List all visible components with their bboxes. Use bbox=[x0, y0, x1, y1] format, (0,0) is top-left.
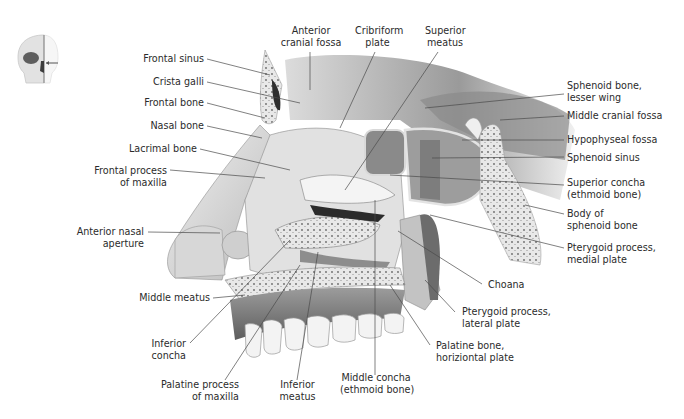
label-middle-meatus: Middle meatus bbox=[139, 292, 210, 304]
label-anterior-nasal-aperture: Anterior nasalaperture bbox=[77, 226, 144, 250]
label-palatine-process-maxilla: Palatine processof maxilla bbox=[161, 379, 239, 403]
label-middle-cranial-fossa: Middle cranial fossa bbox=[567, 110, 662, 122]
anatomy-figure: Frontal sinus Crista galli Frontal bone … bbox=[0, 0, 684, 419]
label-cribriform-plate: Cribriformplate bbox=[355, 25, 400, 49]
label-body-sphenoid: Body ofsphenoid bone bbox=[567, 208, 638, 232]
label-inferior-meatus: Inferiormeatus bbox=[275, 379, 320, 403]
label-frontal-bone: Frontal bone bbox=[144, 97, 204, 109]
label-superior-meatus: Superiormeatus bbox=[425, 25, 465, 49]
label-anterior-cranial-fossa: Anteriorcranial fossa bbox=[280, 25, 342, 49]
label-crista-galli: Crista galli bbox=[153, 76, 204, 88]
label-sphenoid-sinus: Sphenoid sinus bbox=[567, 152, 640, 164]
label-sphenoid-lesser-wing: Sphenoid bone,lesser wing bbox=[567, 80, 642, 104]
label-pterygoid-medial: Pterygoid process,medial plate bbox=[567, 242, 656, 266]
label-frontal-sinus: Frontal sinus bbox=[143, 53, 204, 65]
label-frontal-process-maxilla: Frontal processof maxilla bbox=[94, 165, 167, 189]
label-pterygoid-lateral: Pterygoid process,lateral plate bbox=[462, 306, 551, 330]
label-inferior-concha: Inferiorconcha bbox=[151, 338, 186, 362]
label-choana: Choana bbox=[488, 279, 525, 291]
label-lacrimal-bone: Lacrimal bone bbox=[129, 143, 197, 155]
label-superior-concha: Superior concha(ethmoid bone) bbox=[567, 177, 645, 201]
label-hypophyseal-fossa: Hypophyseal fossa bbox=[567, 134, 657, 146]
label-nasal-bone: Nasal bone bbox=[150, 120, 204, 132]
label-middle-concha: Middle concha(ethmoid bone) bbox=[340, 372, 412, 396]
label-palatine-horizontal: Palatine bone,horiziontal plate bbox=[436, 340, 514, 364]
